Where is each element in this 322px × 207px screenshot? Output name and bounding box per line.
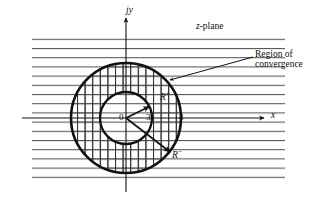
outer-radius-tick-label: 4 [179, 113, 184, 122]
zplane-figure: z-plane Region of convergence jy x R+ R−… [0, 0, 322, 207]
region-of-convergence-label: Region of convergence [255, 50, 303, 70]
z-plane-label-rest: -plane [200, 21, 224, 31]
inner-radius-label: R+ [160, 90, 170, 103]
z-plane-label: z-plane [196, 22, 223, 32]
inner-radius-sign: + [166, 89, 170, 98]
outer-radius-label: R− [172, 148, 182, 161]
roc-line-2: convergence [255, 60, 303, 70]
x-axis-label: x [271, 111, 275, 121]
zplane-svg [0, 0, 322, 207]
origin-label: 0 [119, 113, 124, 122]
outer-radius-sign: − [178, 147, 182, 156]
y-axis-label: jy [126, 6, 133, 16]
inner-radius-tick-label: 3 [146, 113, 151, 122]
